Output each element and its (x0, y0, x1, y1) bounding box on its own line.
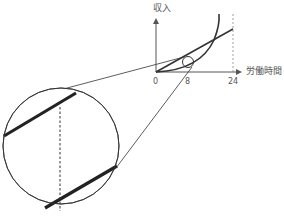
diagram-canvas (0, 0, 284, 217)
straight-income-line (156, 29, 233, 72)
x-axis-arrow-icon (236, 69, 242, 75)
magnifier-circle (3, 88, 119, 211)
x-tick-8: 8 (185, 78, 190, 86)
y-axis-label: 収入 (153, 4, 171, 13)
x-tick-24: 24 (228, 78, 238, 86)
convex-income-curve (156, 14, 219, 72)
y-axis-arrow-icon (153, 18, 159, 24)
x-axis-label: 労働時間 (246, 67, 282, 76)
zoom-connector-top (52, 57, 184, 92)
x-tick-0: 0 (153, 78, 158, 86)
